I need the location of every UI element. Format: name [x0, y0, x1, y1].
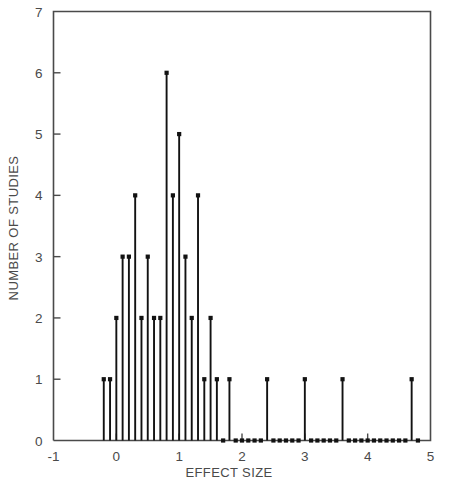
stem-plot: 01234567 -1012345 EFFECT SIZE NUMBER OF … — [0, 0, 450, 488]
y-tick-label: 7 — [35, 5, 43, 20]
stem — [234, 438, 238, 442]
x-axis-title: EFFECT SIZE — [185, 465, 272, 480]
stem-marker — [378, 438, 382, 442]
stem-marker — [347, 438, 351, 442]
x-tick-label: 4 — [364, 449, 372, 464]
stem-marker — [384, 438, 388, 442]
stem-marker — [410, 377, 414, 381]
stem-marker — [183, 255, 187, 259]
stem — [384, 438, 388, 442]
stem — [284, 438, 288, 442]
stem-marker — [372, 438, 376, 442]
stem-marker — [290, 438, 294, 442]
stem-marker — [190, 316, 194, 320]
stem-marker — [171, 193, 175, 197]
stem-marker — [303, 377, 307, 381]
stem-marker — [196, 193, 200, 197]
stem — [221, 438, 225, 442]
stem-marker — [177, 132, 181, 136]
stem-marker — [114, 316, 118, 320]
stem-marker — [165, 71, 169, 75]
stem — [378, 438, 382, 442]
chart-root: 01234567 -1012345 EFFECT SIZE NUMBER OF … — [0, 0, 450, 488]
stem-marker — [227, 377, 231, 381]
stem-marker — [215, 377, 219, 381]
chart-background — [0, 0, 450, 488]
stem-marker — [309, 438, 313, 442]
stem-marker — [139, 316, 143, 320]
stem-marker — [278, 438, 282, 442]
stem — [322, 438, 326, 442]
y-tick-label: 3 — [35, 250, 43, 265]
stem — [290, 438, 294, 442]
stem-marker — [234, 438, 238, 442]
stem — [359, 438, 363, 442]
y-tick-label: 1 — [35, 372, 43, 387]
x-tick-label: 0 — [113, 449, 121, 464]
stem-marker — [102, 377, 106, 381]
stem-marker — [240, 438, 244, 442]
stem-marker — [334, 438, 338, 442]
stem-marker — [121, 255, 125, 259]
stem-marker — [315, 438, 319, 442]
stem-marker — [366, 438, 370, 442]
stem — [372, 438, 376, 442]
x-tick-label: -1 — [47, 449, 59, 464]
stem — [296, 438, 300, 442]
stem — [403, 438, 407, 442]
stem-marker — [403, 438, 407, 442]
stem — [315, 438, 319, 442]
y-tick-label: 5 — [35, 127, 43, 142]
stem-marker — [108, 377, 112, 381]
stem-marker — [246, 438, 250, 442]
stem-marker — [158, 316, 162, 320]
stem-marker — [340, 377, 344, 381]
stem-marker — [152, 316, 156, 320]
stem-marker — [208, 316, 212, 320]
stem-marker — [221, 438, 225, 442]
stem-marker — [391, 438, 395, 442]
y-tick-label: 6 — [35, 66, 43, 81]
stem-marker — [259, 438, 263, 442]
y-axis-title: NUMBER OF STUDIES — [6, 156, 21, 301]
stem-marker — [322, 438, 326, 442]
stem — [353, 438, 357, 442]
stem-marker — [296, 438, 300, 442]
stem — [347, 438, 351, 442]
stem-marker — [133, 193, 137, 197]
x-tick-label: 1 — [175, 449, 183, 464]
stem — [259, 438, 263, 442]
stem — [309, 438, 313, 442]
stem — [271, 438, 275, 442]
stem — [278, 438, 282, 442]
stem-marker — [252, 438, 256, 442]
stem-marker — [359, 438, 363, 442]
x-tick-label: 3 — [301, 449, 309, 464]
x-tick-label: 5 — [427, 449, 435, 464]
stem — [240, 438, 244, 442]
stem-marker — [127, 255, 131, 259]
stem-marker — [397, 438, 401, 442]
stem-marker — [271, 438, 275, 442]
stem — [416, 438, 420, 442]
y-tick-label: 0 — [35, 434, 43, 449]
stem — [328, 438, 332, 442]
stem-marker — [146, 255, 150, 259]
stem-marker — [284, 438, 288, 442]
y-tick-label: 4 — [35, 188, 43, 203]
stem — [397, 438, 401, 442]
stem — [252, 438, 256, 442]
stem-marker — [265, 377, 269, 381]
stem — [366, 438, 370, 442]
stem — [391, 438, 395, 442]
stem-marker — [416, 438, 420, 442]
stem-marker — [328, 438, 332, 442]
stem — [334, 438, 338, 442]
stem-marker — [353, 438, 357, 442]
x-tick-label: 2 — [238, 449, 246, 464]
y-tick-label: 2 — [35, 311, 43, 326]
stem-marker — [202, 377, 206, 381]
stem — [246, 438, 250, 442]
